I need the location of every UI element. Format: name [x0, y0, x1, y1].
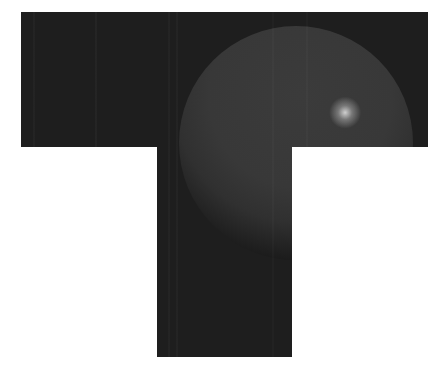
rendered-scene	[0, 0, 448, 378]
t-shaped-panel	[0, 0, 448, 378]
shaded-sphere	[179, 26, 413, 260]
